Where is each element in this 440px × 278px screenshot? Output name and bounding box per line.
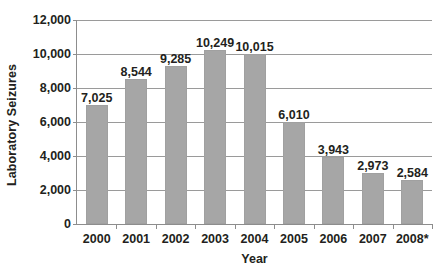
y-axis-tick-mark	[73, 224, 77, 225]
bar-value-label: 8,544	[121, 65, 152, 79]
x-axis-title: Year	[77, 252, 432, 266]
x-axis-tick-label: 2000	[83, 232, 111, 246]
x-axis-tick-label: 2005	[280, 232, 308, 246]
y-axis-tick-label: 2,000	[40, 183, 71, 197]
x-axis-tick-mark	[314, 224, 315, 229]
bar-value-label: 7,025	[81, 91, 112, 105]
bar-value-label: 2,973	[357, 159, 388, 173]
x-axis-tick-mark	[393, 224, 394, 229]
bar-value-label: 9,285	[160, 52, 191, 66]
bar: 10,249	[204, 50, 226, 224]
x-axis-tick-mark	[432, 224, 433, 229]
y-axis-tick-mark	[73, 156, 77, 157]
y-axis-tick-mark	[73, 20, 77, 21]
y-axis-tick-mark	[73, 190, 77, 191]
plot-area: 02,0004,0006,0008,00010,00012,000 7,0258…	[77, 20, 432, 224]
x-axis-tick-label: 2008*	[396, 232, 429, 246]
bar-value-label: 10,015	[235, 40, 273, 54]
x-axis-tick-mark	[353, 224, 354, 229]
y-axis-tick-mark	[73, 122, 77, 123]
bar-value-label: 6,010	[278, 108, 309, 122]
bar-value-label: 3,943	[318, 143, 349, 157]
bar: 8,544	[125, 79, 147, 224]
y-axis-tick-label: 8,000	[40, 81, 71, 95]
x-axis-tick-label: 2006	[319, 232, 347, 246]
bar: 6,010	[283, 122, 305, 224]
x-axis-tick-label: 2001	[122, 232, 150, 246]
y-axis-tick-mark	[73, 54, 77, 55]
bar: 3,943	[322, 157, 344, 224]
y-axis-tick-label: 4,000	[40, 149, 71, 163]
bar: 7,025	[86, 105, 108, 224]
x-axis-tick-label: 2003	[201, 232, 229, 246]
bar: 10,015	[244, 54, 266, 224]
bar-chart: Laboratory Seizures 02,0004,0006,0008,00…	[0, 0, 440, 278]
x-axis-tick-mark	[235, 224, 236, 229]
bar: 2,973	[362, 173, 384, 224]
bar-value-label: 10,249	[196, 36, 234, 50]
x-axis-line	[76, 224, 433, 225]
x-axis-tick-label: 2002	[162, 232, 190, 246]
y-axis-tick-label: 6,000	[40, 115, 71, 129]
x-axis-tick-label: 2007	[359, 232, 387, 246]
x-axis-tick-mark	[274, 224, 275, 229]
bar-value-label: 2,584	[397, 166, 428, 180]
y-axis-tick-label: 12,000	[33, 13, 71, 27]
bar: 9,285	[165, 66, 187, 224]
y-axis-tick-label: 0	[64, 217, 71, 231]
x-axis-title-label: Year	[241, 252, 267, 266]
x-axis-tick-label: 2004	[241, 232, 269, 246]
y-axis-tick-label: 10,000	[33, 47, 71, 61]
gridline	[77, 20, 432, 21]
y-axis-title-label: Laboratory Seizures	[5, 64, 19, 186]
x-axis-tick-mark	[116, 224, 117, 229]
x-axis-tick-mark	[156, 224, 157, 229]
x-axis-tick-mark	[195, 224, 196, 229]
y-axis-title: Laboratory Seizures	[0, 0, 24, 278]
y-axis-tick-mark	[73, 88, 77, 89]
bar: 2,584	[401, 180, 423, 224]
